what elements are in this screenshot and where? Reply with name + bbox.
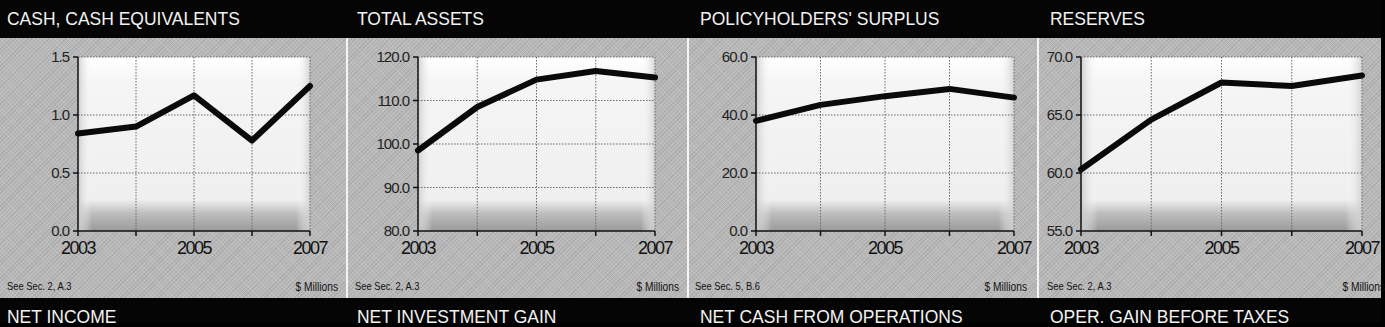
y-tick-label: 0.0 (729, 222, 748, 239)
x-tick-label: 2005 (1204, 238, 1240, 258)
y-tick-label: 110.0 (378, 92, 410, 109)
panel-title-oper-gain-before-taxes: OPER. GAIN BEFORE TAXES (1050, 306, 1289, 327)
y-tick-label: 0.5 (51, 164, 70, 181)
y-tick-label: 65.0 (1047, 106, 1073, 123)
panel-units: $ Millions (295, 280, 338, 294)
y-tick-label: 60.0 (722, 48, 748, 65)
y-tick-label: 20.0 (722, 164, 748, 181)
chart-cash: 0.00.51.01.5200320052007 (0, 38, 346, 298)
y-tick-label: 0.0 (51, 222, 70, 239)
panel-note: See Sec. 2, A.3 (1047, 280, 1111, 292)
x-tick-label: 2003 (739, 238, 775, 258)
panel-title-net-investment-gain: NET INVESTMENT GAIN (357, 306, 556, 327)
x-tick-label: 2003 (401, 238, 437, 258)
y-tick-label: 100.0 (376, 135, 409, 152)
panel-title-total-assets: TOTAL ASSETS (357, 8, 484, 30)
x-tick-label: 2005 (177, 238, 213, 258)
panel-units: $ Millions (636, 280, 679, 294)
panel-cash: 0.00.51.01.5200320052007 See Sec. 2, A.3… (0, 38, 346, 298)
panel-units: $ Millions (1342, 280, 1385, 294)
y-tick-label: 80.0 (384, 222, 410, 239)
panel-title-policyholders-surplus: POLICYHOLDERS' SURPLUS (700, 8, 939, 30)
y-tick-label: 70.0 (1047, 48, 1073, 65)
panel-title-reserves: RESERVES (1050, 8, 1145, 30)
y-tick-label: 40.0 (722, 106, 748, 123)
x-tick-label: 2003 (1064, 238, 1100, 258)
panel-total-assets: 80.090.0100.0110.0120.0200320052007 See … (348, 38, 687, 298)
x-tick-label: 2007 (1345, 238, 1381, 258)
panel-title-cash: CASH, CASH EQUIVALENTS (7, 8, 240, 30)
y-tick-label: 60.0 (1047, 164, 1073, 181)
x-tick-label: 2005 (519, 238, 555, 258)
panel-reserves: 55.060.065.070.0200320052007 See Sec. 2,… (1039, 38, 1381, 298)
panel-policyholders-surplus: 0.020.040.060.0200320052007 See Sec. 5, … (689, 38, 1037, 298)
y-tick-label: 120.0 (376, 48, 409, 65)
y-tick-label: 55.0 (1047, 222, 1073, 239)
y-tick-label: 1.5 (51, 48, 70, 65)
x-tick-label: 2007 (293, 238, 329, 258)
panel-note: See Sec. 2, A.3 (355, 280, 419, 292)
chart-total-assets: 80.090.0100.0110.0120.0200320052007 (348, 38, 687, 298)
chart-policyholders-surplus: 0.020.040.060.0200320052007 (689, 38, 1037, 298)
panel-units: $ Millions (984, 280, 1027, 294)
x-tick-label: 2007 (997, 238, 1033, 258)
x-tick-label: 2007 (638, 238, 674, 258)
x-tick-label: 2005 (868, 238, 904, 258)
x-tick-label: 2003 (61, 238, 97, 258)
y-tick-label: 1.0 (51, 106, 70, 123)
panel-note: See Sec. 2, A.3 (7, 280, 71, 292)
panel-title-net-income: NET INCOME (7, 306, 116, 327)
panel-title-net-cash-from-operations: NET CASH FROM OPERATIONS (700, 306, 963, 327)
chart-reserves: 55.060.065.070.0200320052007 (1039, 38, 1381, 298)
panel-note: See Sec. 5, B.6 (695, 280, 760, 292)
y-tick-label: 90.0 (384, 179, 410, 196)
